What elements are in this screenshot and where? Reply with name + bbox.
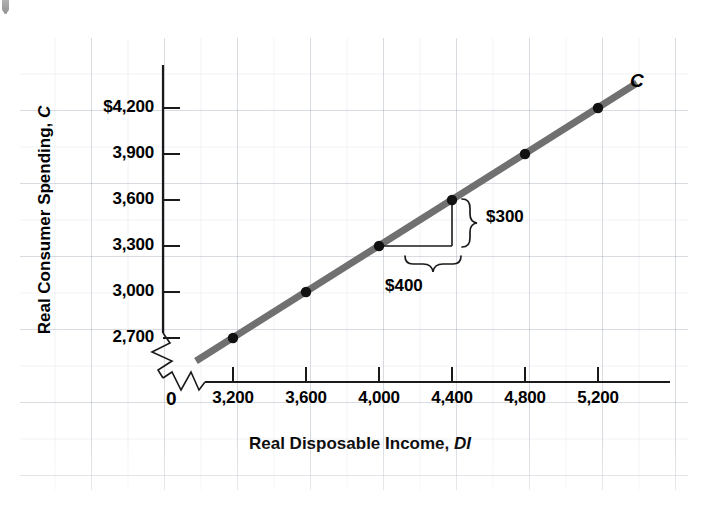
y-axis-break-icon xyxy=(152,333,172,378)
x-tick-label-4000: 4,000 xyxy=(339,388,419,408)
consumption-function-line xyxy=(196,83,637,361)
x-tick-label-3200: 3,200 xyxy=(193,388,273,408)
data-point xyxy=(374,241,384,251)
chart-page: $4,200 3,900 3,600 3,300 3,000 2,700 3,2… xyxy=(0,0,711,506)
y-tick-label-3000: 3,000 xyxy=(68,281,154,301)
data-point xyxy=(593,103,603,113)
x-tick-label-4400: 4,400 xyxy=(412,388,492,408)
y-axis-title-text: Real Consumer Spending, xyxy=(35,118,54,334)
y-axis-title: Real Consumer Spending, C xyxy=(35,105,55,335)
data-point xyxy=(447,195,457,205)
annotation-label-rise: $300 xyxy=(486,207,524,227)
x-tick-label-3600: 3,600 xyxy=(266,388,346,408)
y-tick-label-3600: 3,600 xyxy=(68,189,154,209)
brace-300 xyxy=(462,199,477,247)
x-axis-title-symbol: DI xyxy=(454,434,471,453)
curve-label-c: C xyxy=(630,70,644,92)
data-point xyxy=(301,287,311,297)
x-axis-title: Real Disposable Income, DI xyxy=(180,434,540,454)
x-tick-label-5200: 5,200 xyxy=(558,388,638,408)
data-point xyxy=(520,149,530,159)
x-axis-title-text: Real Disposable Income, xyxy=(249,434,454,453)
y-tick-label-3300: 3,300 xyxy=(68,235,154,255)
y-axis-title-symbol: C xyxy=(35,106,54,118)
y-tick-label-3900: 3,900 xyxy=(68,143,154,163)
y-axis-ticks xyxy=(163,108,180,338)
y-tick-label-4200: $4,200 xyxy=(68,97,154,117)
data-point xyxy=(228,333,238,343)
brace-400 xyxy=(405,256,461,272)
x-axis-ticks xyxy=(233,367,598,382)
origin-label: 0 xyxy=(166,388,177,410)
y-tick-label-2700: 2,700 xyxy=(68,327,154,347)
x-tick-label-4800: 4,800 xyxy=(485,388,565,408)
annotation-label-run: $400 xyxy=(385,276,423,296)
